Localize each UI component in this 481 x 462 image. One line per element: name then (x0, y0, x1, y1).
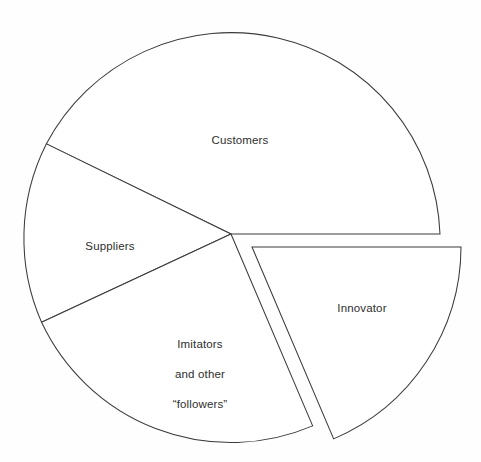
pie-slice-label-suppliers-line-1: Suppliers (55, 239, 165, 254)
pie-slice-label-suppliers: Suppliers (55, 224, 165, 269)
pie-slice-label-customers-line-1: Customers (180, 133, 300, 148)
pie-slice-label-innovator: Innovator (307, 286, 417, 331)
pie-chart-figure: Customers Suppliers Imitators and other … (0, 0, 481, 462)
pie-slice-label-customers: Customers (180, 118, 300, 163)
pie-slice-label-imitators: Imitators and other “followers” (143, 322, 257, 427)
pie-slice-label-imitators-line-1: Imitators (143, 337, 257, 352)
pie-slice-label-imitators-line-2: and other (143, 367, 257, 382)
pie-slice-label-innovator-line-1: Innovator (307, 301, 417, 316)
pie-slice-label-imitators-line-3: “followers” (143, 397, 257, 412)
